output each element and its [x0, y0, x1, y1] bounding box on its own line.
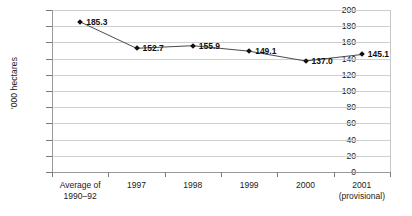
gridline — [53, 91, 391, 92]
gridline — [53, 75, 391, 76]
data-point-label: 152.7 — [143, 43, 164, 53]
gridline — [53, 10, 391, 11]
data-point-label: 137.0 — [312, 56, 333, 66]
data-point-label: 185.3 — [86, 17, 107, 27]
x-tick-mark — [277, 172, 278, 177]
gridline — [53, 123, 391, 124]
y-axis-title: '000 hectares — [9, 43, 19, 123]
x-tick-mark — [52, 172, 53, 177]
x-tick-mark — [334, 172, 335, 177]
x-tick-mark — [390, 172, 391, 177]
x-tick-mark — [221, 172, 222, 177]
x-tick-label-line2: 1990–92 — [32, 191, 128, 202]
gridline — [53, 42, 391, 43]
x-tick-mark — [108, 172, 109, 177]
data-point-label: 155.9 — [199, 41, 220, 51]
gridline — [53, 140, 391, 141]
x-tick-label: 2001(provisional) — [314, 180, 410, 202]
x-tick-label-line2: (provisional) — [314, 191, 410, 202]
data-point-label: 149.1 — [255, 46, 276, 56]
gridline — [53, 59, 391, 60]
plot-area — [52, 10, 391, 173]
line-chart: '000 hectares 20018016014012010080604020… — [0, 0, 412, 216]
gridline — [53, 156, 391, 157]
data-point-label: 145.1 — [368, 49, 389, 59]
x-tick-mark — [165, 172, 166, 177]
x-tick-label-line1: 2001 — [314, 180, 410, 191]
gridline — [53, 107, 391, 108]
